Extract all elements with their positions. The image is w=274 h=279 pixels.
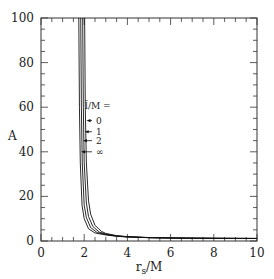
- svg-text:100: 100: [11, 11, 34, 25]
- svg-text:2: 2: [80, 246, 88, 260]
- plot-frame: [41, 18, 257, 241]
- svg-text:6: 6: [167, 246, 175, 260]
- curve-0: [85, 18, 257, 238]
- svg-text:2: 2: [96, 136, 102, 146]
- svg-text:0: 0: [26, 234, 34, 248]
- svg-text:40: 40: [19, 145, 34, 159]
- svg-text:4: 4: [124, 246, 132, 260]
- curve-3: [79, 18, 257, 239]
- curve-2: [81, 18, 257, 238]
- data-curves: [79, 18, 257, 239]
- svg-text:8: 8: [210, 246, 218, 260]
- svg-text:10: 10: [249, 246, 264, 260]
- svg-text:∞: ∞: [96, 147, 104, 157]
- chart: 0246810 020406080100 l̃/M =012∞ rs/M A: [0, 0, 274, 279]
- svg-text:60: 60: [19, 100, 34, 114]
- x-axis-title: rs/M: [136, 260, 163, 276]
- svg-text:80: 80: [19, 56, 34, 70]
- svg-text:20: 20: [19, 189, 34, 203]
- svg-text:l̃/M =: l̃/M =: [85, 100, 111, 111]
- svg-text:0: 0: [96, 116, 102, 126]
- svg-text:0: 0: [37, 246, 45, 260]
- x-tick-labels: 0246810: [37, 246, 264, 260]
- curve-1: [83, 18, 257, 238]
- axis-ticks: [41, 18, 257, 241]
- y-axis-title: A: [7, 129, 17, 143]
